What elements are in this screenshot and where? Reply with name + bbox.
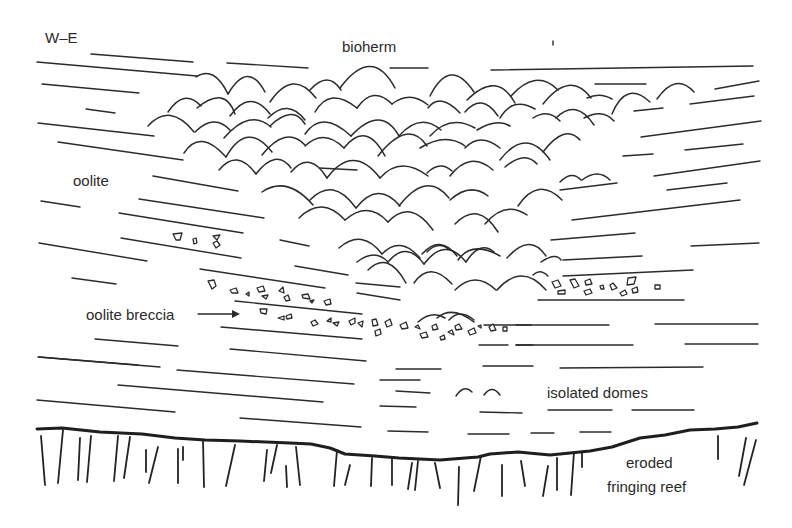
isolated-domes-label: isolated domes (547, 384, 648, 401)
breccia-arrow (198, 310, 240, 318)
bioherm-label: bioherm (342, 38, 396, 55)
oolite-label: oolite (73, 172, 109, 189)
geologic-cross-section: W–E bioherm oolite oolite breccia isolat… (0, 0, 792, 528)
orientation-label: W–E (45, 29, 78, 46)
oolite-breccia-label: oolite breccia (86, 306, 175, 323)
fringing-reef-label: fringing reef (607, 478, 687, 495)
eroded-label: eroded (626, 454, 673, 471)
oolite-bedding-lines (37, 54, 761, 434)
isolated-domes (456, 389, 500, 396)
oolite-breccia-clasts (173, 233, 660, 340)
